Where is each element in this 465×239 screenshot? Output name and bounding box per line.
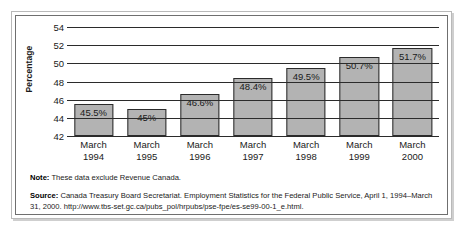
x-tick-year: 1999	[333, 151, 386, 163]
x-tick-month: March	[173, 139, 226, 151]
x-tick-label: March1996	[173, 139, 226, 162]
x-tick-label: March1998	[280, 139, 333, 162]
note-line: Note: These data exclude Revenue Canada.	[30, 172, 433, 183]
x-tick-year: 1997	[226, 151, 279, 163]
x-tick-month: March	[280, 139, 333, 151]
x-tick-year: 1998	[280, 151, 333, 163]
source-label: Source:	[30, 191, 58, 200]
figure-inner-border: Percentage 54525048464442 45.5%45%46.6%4…	[15, 15, 448, 215]
source-text: Canada Treasury Board Secretariat. Emplo…	[30, 191, 432, 211]
y-tick-label: 54	[42, 23, 64, 32]
bar-value-label: 51.7%	[394, 51, 431, 62]
gridline	[67, 27, 439, 28]
gridline	[67, 118, 439, 119]
x-tick-month: March	[67, 139, 120, 151]
bar-value-label: 49.5%	[287, 71, 324, 82]
bar-value-label: 45.5%	[75, 107, 112, 118]
figure-frame: Percentage 54525048464442 45.5%45%46.6%4…	[11, 11, 452, 219]
source-line: Source: Canada Treasury Board Secretaria…	[30, 190, 433, 212]
note-label: Note:	[30, 173, 49, 182]
x-tick-year: 1996	[173, 151, 226, 163]
note-text: These data exclude Revenue Canada.	[49, 173, 181, 182]
y-tick-label: 48	[42, 77, 64, 86]
y-tick-label: 50	[42, 59, 64, 68]
bar[interactable]: 48.4%	[233, 78, 272, 136]
x-tick-label: March2000	[386, 139, 439, 162]
gridline	[67, 82, 439, 83]
x-tick-month: March	[226, 139, 279, 151]
y-tick-label: 52	[42, 41, 64, 50]
y-axis-tick-labels: 54525048464442	[42, 27, 64, 136]
y-tick-label: 44	[42, 113, 64, 122]
gridline	[67, 45, 439, 46]
footnotes: Note: These data exclude Revenue Canada.…	[16, 168, 447, 214]
x-tick-year: 1995	[120, 151, 173, 163]
y-tick-label: 46	[42, 95, 64, 104]
bar[interactable]: 45%	[127, 109, 166, 136]
y-tick-label: 42	[42, 132, 64, 141]
x-tick-month: March	[120, 139, 173, 151]
bar-value-label: 50.7%	[341, 60, 378, 71]
y-axis-title: Percentage	[24, 34, 34, 104]
x-tick-year: 1994	[67, 151, 120, 163]
bar-value-label: 46.6%	[181, 97, 218, 108]
gridline	[67, 136, 439, 137]
chart-plot-area: Percentage 54525048464442 45.5%45%46.6%4…	[16, 16, 447, 168]
x-tick-month: March	[333, 139, 386, 151]
x-tick-month: March	[386, 139, 439, 151]
bar[interactable]: 50.7%	[340, 57, 379, 136]
x-tick-label: March1995	[120, 139, 173, 162]
bar[interactable]: 45.5%	[74, 104, 113, 136]
bar[interactable]: 49.5%	[286, 68, 325, 136]
bar[interactable]: 51.7%	[393, 48, 432, 136]
x-axis-tick-labels: March1994March1995March1996March1997Marc…	[67, 139, 439, 162]
x-tick-label: March1994	[67, 139, 120, 162]
x-tick-label: March1997	[226, 139, 279, 162]
gridline	[67, 100, 439, 101]
x-tick-year: 2000	[386, 151, 439, 163]
plot-canvas: 45.5%45%46.6%48.4%49.5%50.7%51.7%	[67, 27, 439, 136]
gridline	[67, 63, 439, 64]
x-tick-label: March1999	[333, 139, 386, 162]
